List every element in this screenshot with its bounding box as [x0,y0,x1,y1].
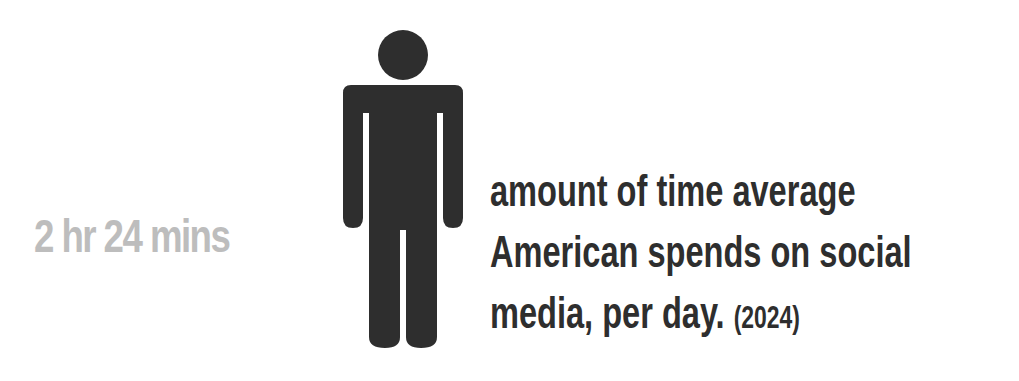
description: amount of time average American spends o… [490,160,912,348]
description-line-2: American spends on social [490,221,912,282]
description-line-1: amount of time average [490,160,912,221]
description-line-3-text: media, per day. [490,288,725,337]
description-line-3: media, per day. (2024) [490,282,912,348]
year-label: (2024) [734,300,800,335]
